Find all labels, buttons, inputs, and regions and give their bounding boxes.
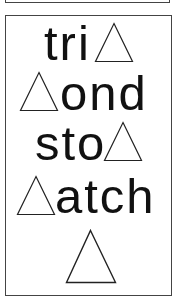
word-fragment-tri: tri [44, 19, 91, 68]
word-fragment-sto: sto [35, 119, 106, 168]
triangle-icon [66, 230, 116, 283]
triangle-icon [17, 176, 55, 215]
triangle-icon [104, 122, 142, 161]
word-fragment-ond: ond [60, 69, 148, 118]
triangle-icon [95, 23, 133, 62]
word-fragment-atch: atch [55, 172, 156, 221]
triangle-icon [20, 72, 58, 111]
previous-card-frame [5, 0, 170, 3]
